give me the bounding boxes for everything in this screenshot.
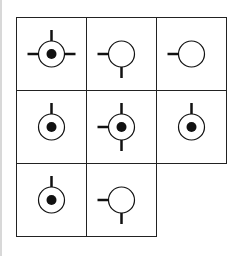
empty-circle-icon bbox=[87, 164, 156, 236]
puzzle-cell bbox=[16, 90, 87, 164]
center-dot bbox=[117, 122, 127, 132]
center-dot bbox=[47, 49, 57, 59]
circle-with-dot-icon bbox=[17, 18, 86, 90]
center-dot bbox=[47, 122, 57, 132]
puzzle-cell bbox=[86, 17, 157, 91]
empty-circle-icon bbox=[157, 18, 226, 90]
center-dot bbox=[47, 195, 57, 205]
left-edge-strip bbox=[0, 0, 2, 256]
puzzle-cell bbox=[16, 17, 87, 91]
puzzle-cell bbox=[86, 163, 157, 237]
circle-with-dot-icon bbox=[87, 91, 156, 163]
circle-with-dot-icon bbox=[157, 91, 226, 163]
puzzle-cell bbox=[86, 90, 157, 164]
puzzle-cell bbox=[156, 90, 227, 164]
center-dot bbox=[187, 122, 197, 132]
empty-circle-icon bbox=[87, 18, 156, 90]
circle-with-dot-icon bbox=[17, 164, 86, 236]
puzzle-cell bbox=[16, 163, 87, 237]
puzzle-cell bbox=[156, 17, 227, 91]
circle-with-dot-icon bbox=[17, 91, 86, 163]
